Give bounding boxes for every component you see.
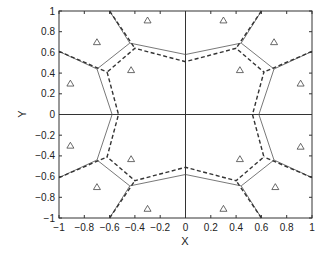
y-tick-labels: −1−0.8−0.6−0.4−0.200.20.40.60.81 <box>35 6 55 224</box>
x-tick-label: 0.6 <box>254 222 268 233</box>
voronoi-chart: −1−0.8−0.6−0.4−0.200.20.40.60.81 −1−0.8−… <box>0 0 328 263</box>
y-tick-label: 0.6 <box>41 47 55 58</box>
x-tick-label: −0.4 <box>125 222 145 233</box>
x-tick-label: −0.2 <box>150 222 170 233</box>
x-tick-label: −1 <box>53 222 65 233</box>
x-tick-label: −0.8 <box>74 222 94 233</box>
y-tick-label: −0.2 <box>35 130 55 141</box>
y-tick-label: 0.2 <box>41 88 55 99</box>
y-tick-label: 1 <box>49 6 55 17</box>
x-tick-label: 0.2 <box>204 222 218 233</box>
y-axis-label: Y <box>16 110 28 118</box>
x-tick-label: 0 <box>183 222 189 233</box>
x-tick-label: 1 <box>309 222 315 233</box>
y-tick-label: −0.4 <box>35 150 55 161</box>
x-tick-label: −0.6 <box>100 222 120 233</box>
y-tick-label: 0.8 <box>41 26 55 37</box>
x-axis-label: X <box>181 235 189 247</box>
y-tick-label: 0 <box>49 109 55 120</box>
x-tick-label: 0.4 <box>229 222 243 233</box>
y-tick-label: −0.8 <box>35 192 55 203</box>
x-tick-labels: −1−0.8−0.6−0.4−0.200.20.40.60.81 <box>53 222 315 233</box>
y-tick-label: −1 <box>44 213 56 224</box>
x-tick-label: 0.8 <box>280 222 294 233</box>
y-tick-label: 0.4 <box>41 68 55 79</box>
y-tick-label: −0.6 <box>35 171 55 182</box>
